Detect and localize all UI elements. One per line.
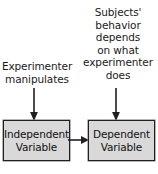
box-dependent-line-2: Variable (101, 141, 142, 154)
experimental-variables-diagram: Subjects' behavior depends on what exper… (0, 0, 158, 174)
caption-dependent-line-3: depends (78, 31, 158, 44)
box-dependent-line-1: Dependent (93, 128, 150, 141)
caption-dependent-line-2: behavior (78, 19, 158, 32)
caption-dependent-variable: Subjects' behavior depends on what exper… (78, 6, 158, 82)
box-independent-line-1: Independent (4, 128, 69, 141)
caption-dependent-line-5: experimenter (78, 56, 158, 69)
arrow-down-icon-independent (26, 88, 42, 122)
caption-dependent-line-6: does (78, 69, 158, 82)
arrow-down-icon-dependent (108, 88, 124, 122)
arrow-right-icon-connector (68, 132, 90, 148)
caption-independent-line-2: manipulates (0, 73, 74, 86)
caption-independent-line-1: Experimenter (0, 60, 74, 73)
box-independent-variable: Independent Variable (3, 120, 70, 161)
box-independent-line-2: Variable (16, 141, 57, 154)
caption-dependent-line-1: Subjects' (78, 6, 158, 19)
box-dependent-variable: Dependent Variable (88, 120, 155, 161)
caption-dependent-line-4: on what (78, 44, 158, 57)
caption-independent-variable: Experimenter manipulates (0, 60, 74, 85)
